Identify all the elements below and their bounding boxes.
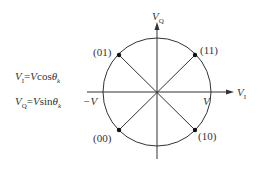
i-axis-label-var: V [237, 86, 244, 98]
q-axis-label-var: V [152, 10, 159, 22]
equation-vi: VI=Vcosθk [15, 71, 60, 85]
equation-vq: VQ=Vsinθk [15, 96, 61, 110]
eq-rhs-var: V [33, 95, 40, 107]
point-label-11: (11) [200, 45, 218, 56]
point-label-10: (10) [198, 131, 216, 142]
eq-func: cos [37, 70, 52, 82]
point-10 [193, 128, 197, 132]
eq-theta-sub: k [57, 77, 60, 85]
eq-lhs: V [15, 95, 22, 107]
q-axis-label: VQ [152, 11, 164, 25]
i-axis-label: VI [237, 87, 246, 101]
eq-theta-sub: k [58, 102, 61, 110]
i-axis-label-sub: I [244, 93, 246, 101]
q-axis-label-sub: Q [159, 17, 164, 25]
negative-amplitude-label: −V [83, 96, 97, 107]
point-11 [193, 53, 197, 57]
point-label-00: (00) [93, 133, 111, 144]
positive-amplitude-label: V [203, 96, 210, 107]
eq-func: sin [40, 95, 53, 107]
point-00 [117, 128, 121, 132]
i-axis-arrow-icon [226, 90, 234, 95]
point-01 [117, 53, 121, 57]
point-label-01: (01) [93, 47, 111, 58]
eq-lhs: V [15, 70, 22, 82]
